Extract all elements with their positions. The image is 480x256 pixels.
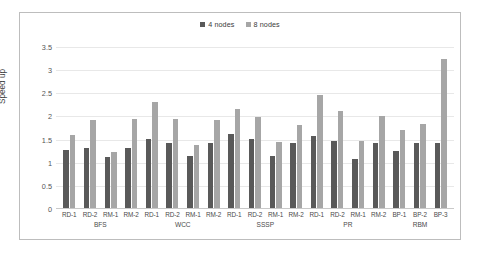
bar-group bbox=[183, 47, 204, 208]
bar-group bbox=[245, 47, 266, 208]
bar[interactable] bbox=[187, 156, 193, 208]
bar[interactable] bbox=[111, 152, 117, 208]
bar[interactable] bbox=[420, 124, 426, 208]
x-tick-label: BP-1 bbox=[389, 211, 410, 218]
y-tick-label: 1 bbox=[4, 158, 52, 167]
legend-label: 8 nodes bbox=[254, 20, 280, 29]
bar-group bbox=[121, 47, 142, 208]
bar[interactable] bbox=[255, 117, 261, 208]
y-tick-label: 3.5 bbox=[4, 43, 52, 52]
category-label: PR bbox=[307, 221, 390, 228]
bar[interactable] bbox=[235, 109, 241, 209]
plot-area bbox=[56, 47, 454, 209]
x-tick-label: RM-1 bbox=[100, 211, 121, 218]
legend-item[interactable]: 4 nodes bbox=[200, 20, 234, 29]
x-tick-label: RM-1 bbox=[183, 211, 204, 218]
x-tick-label: RM-1 bbox=[265, 211, 286, 218]
bar[interactable] bbox=[400, 130, 406, 208]
x-tick-label: RD-2 bbox=[245, 211, 266, 218]
bar[interactable] bbox=[379, 116, 385, 208]
chart-legend: 4 nodes8 nodes bbox=[0, 20, 480, 29]
x-tick-label: RD-1 bbox=[307, 211, 328, 218]
chart-screenshot: 4 nodes8 nodes Speed up 3.532.521.510.50… bbox=[0, 0, 480, 256]
bar[interactable] bbox=[352, 159, 358, 208]
bar[interactable] bbox=[297, 125, 303, 208]
legend-swatch-icon bbox=[246, 22, 251, 27]
bar-group bbox=[142, 47, 163, 208]
x-tick-label: RM-2 bbox=[368, 211, 389, 218]
bar-group bbox=[286, 47, 307, 208]
bar[interactable] bbox=[194, 145, 200, 208]
legend-item[interactable]: 8 nodes bbox=[246, 20, 280, 29]
bar[interactable] bbox=[166, 143, 172, 208]
y-tick-label: 3 bbox=[4, 66, 52, 75]
y-tick-label: 2 bbox=[4, 112, 52, 121]
y-tick-label: 2.5 bbox=[4, 89, 52, 98]
bar-group bbox=[100, 47, 121, 208]
x-tick-label: RD-2 bbox=[162, 211, 183, 218]
x-tick-label: RD-2 bbox=[80, 211, 101, 218]
bar[interactable] bbox=[311, 136, 317, 208]
bar[interactable] bbox=[84, 148, 90, 208]
bar[interactable] bbox=[70, 135, 76, 208]
bar[interactable] bbox=[152, 102, 158, 208]
bar[interactable] bbox=[63, 150, 69, 208]
bar-groups bbox=[56, 47, 454, 208]
bar-group bbox=[203, 47, 224, 208]
bar-group bbox=[368, 47, 389, 208]
bar[interactable] bbox=[393, 151, 399, 208]
bar[interactable] bbox=[331, 141, 337, 208]
category-label: BFS bbox=[59, 221, 142, 228]
bar-group bbox=[327, 47, 348, 208]
x-tick-label: RM-1 bbox=[348, 211, 369, 218]
y-tick-label: 0 bbox=[4, 205, 52, 214]
bar[interactable] bbox=[435, 143, 441, 208]
bar[interactable] bbox=[317, 95, 323, 208]
category-label: WCC bbox=[142, 221, 225, 228]
x-axis-line bbox=[56, 208, 454, 209]
bar[interactable] bbox=[338, 111, 344, 208]
category-label: RBM bbox=[389, 221, 451, 228]
x-tick-label: RD-1 bbox=[224, 211, 245, 218]
legend-label: 4 nodes bbox=[208, 20, 234, 29]
bar[interactable] bbox=[290, 143, 296, 208]
x-tick-label: RD-2 bbox=[327, 211, 348, 218]
bar[interactable] bbox=[90, 120, 96, 208]
x-tick-label: RM-2 bbox=[286, 211, 307, 218]
bar[interactable] bbox=[270, 156, 276, 208]
category-label: SSSP bbox=[224, 221, 307, 228]
bar[interactable] bbox=[105, 157, 111, 208]
bar[interactable] bbox=[208, 143, 214, 208]
x-axis-category-labels: BFSWCCSSSPPRRBM bbox=[56, 221, 454, 233]
y-tick-label: 0.5 bbox=[4, 181, 52, 190]
bar[interactable] bbox=[359, 141, 365, 208]
bar[interactable] bbox=[146, 139, 152, 208]
bar-group bbox=[410, 47, 431, 208]
bar[interactable] bbox=[414, 143, 420, 208]
bar-group bbox=[59, 47, 80, 208]
bar-group bbox=[389, 47, 410, 208]
bar-group bbox=[224, 47, 245, 208]
bar[interactable] bbox=[228, 134, 234, 208]
bar[interactable] bbox=[132, 119, 138, 208]
bar-group bbox=[265, 47, 286, 208]
x-tick-label: RD-1 bbox=[59, 211, 80, 218]
bar[interactable] bbox=[373, 143, 379, 208]
bar[interactable] bbox=[125, 148, 131, 208]
y-axis-ticks: 3.532.521.510.50 bbox=[2, 47, 52, 209]
x-tick-label: BP-3 bbox=[430, 211, 451, 218]
x-tick-label: RM-2 bbox=[121, 211, 142, 218]
bar-group bbox=[348, 47, 369, 208]
x-tick-label: RD-1 bbox=[142, 211, 163, 218]
bar[interactable] bbox=[173, 119, 179, 208]
x-tick-label: BP-2 bbox=[410, 211, 431, 218]
bar[interactable] bbox=[441, 59, 447, 209]
x-tick-label: RM-2 bbox=[203, 211, 224, 218]
bar-group bbox=[430, 47, 451, 208]
x-axis-tick-labels: RD-1RD-2RM-1RM-2RD-1RD-2RM-1RM-2RD-1RD-2… bbox=[56, 211, 454, 218]
bar[interactable] bbox=[249, 139, 255, 208]
bar[interactable] bbox=[276, 142, 282, 208]
y-tick-label: 1.5 bbox=[4, 135, 52, 144]
bar-group bbox=[162, 47, 183, 208]
bar[interactable] bbox=[214, 120, 220, 208]
